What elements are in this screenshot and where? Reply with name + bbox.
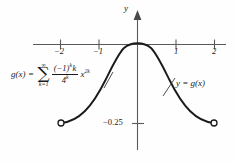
sigma-icon: ∑: [38, 67, 50, 81]
fraction-numerator: (−1)k k: [52, 64, 79, 73]
y-axis-label: y: [124, 4, 128, 13]
x-tick-label-minus-2: −2: [54, 47, 64, 56]
x-tick-label-minus-1: −1: [93, 47, 103, 56]
y-tick-label-minus-0-25: −0.25: [103, 118, 123, 127]
x-tick-label-plus-2: 2: [212, 47, 216, 56]
x-power-term: x2k: [80, 69, 89, 79]
summation-operator: ∞ ∑ k=1: [38, 62, 50, 87]
formula-lhs: g(x): [11, 69, 26, 79]
y-axis-arrow-icon: [134, 10, 142, 20]
open-endpoint-right: [211, 120, 217, 126]
formula-equals: =: [29, 69, 34, 79]
fraction-denominator: 4k: [60, 76, 71, 85]
open-endpoint-left: [58, 120, 64, 126]
math-figure: y −2 −1 1 2 −0.25 y = g(x) g(x) = ∞ ∑ k=…: [0, 0, 235, 164]
curve-label: y = g(x): [176, 79, 205, 88]
coefficient-fraction: (−1)k k 4k: [52, 64, 79, 85]
x-tick-label-plus-1: 1: [174, 47, 178, 56]
series-formula: g(x) = ∞ ∑ k=1 (−1)k k 4k x2k: [11, 62, 90, 87]
summation-lower-limit: k=1: [39, 81, 49, 87]
